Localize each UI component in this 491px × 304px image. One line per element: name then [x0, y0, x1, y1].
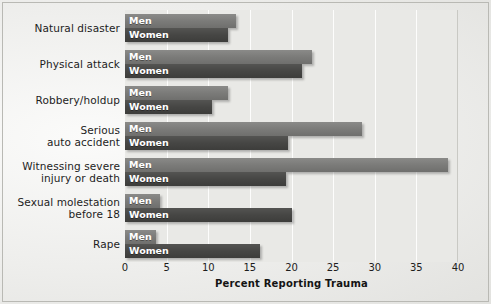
bar-men-0: Men [125, 14, 236, 28]
bar-series-label: Men [129, 14, 152, 28]
bar-women-2: Women [125, 100, 212, 114]
bar-series-label: Men [129, 50, 152, 64]
bar-women-1: Women [125, 64, 302, 78]
chart-figure: Natural disasterPhysical attackRobbery/h… [0, 0, 491, 304]
bar-women-5: Women [125, 208, 292, 222]
category-label-0: Natural disaster [4, 22, 120, 34]
bar-series-label: Men [129, 86, 152, 100]
x-tick-0: 0 [122, 262, 128, 273]
bar-series-label: Women [129, 244, 169, 258]
bar-group-0: MenWomen [125, 10, 457, 46]
bar-men-1: Men [125, 50, 312, 64]
bar-group-3: MenWomen [125, 118, 457, 154]
bar-group-6: MenWomen [125, 226, 457, 262]
x-axis-title: Percent Reporting Trauma [125, 278, 458, 289]
bar-women-3: Women [125, 136, 288, 150]
bar-series-label: Women [129, 208, 169, 222]
x-tick-30: 30 [368, 262, 381, 273]
bar-group-1: MenWomen [125, 46, 457, 82]
category-label-1: Physical attack [4, 58, 120, 70]
bar-series-label: Men [129, 230, 152, 244]
bar-men-2: Men [125, 86, 228, 100]
plot-area: MenWomenMenWomenMenWomenMenWomenMenWomen… [125, 10, 458, 262]
x-tick-10: 10 [202, 262, 215, 273]
category-label-5: Sexual molestationbefore 18 [4, 196, 120, 220]
category-label-2: Robbery/holdup [4, 94, 120, 106]
x-tick-35: 35 [410, 262, 423, 273]
bar-group-5: MenWomen [125, 190, 457, 226]
bar-series-label: Men [129, 122, 152, 136]
bar-series-label: Men [129, 194, 152, 208]
x-tick-5: 5 [163, 262, 169, 273]
bar-series-label: Women [129, 100, 169, 114]
bar-women-6: Women [125, 244, 260, 258]
x-tick-40: 40 [452, 262, 465, 273]
x-tick-15: 15 [244, 262, 257, 273]
category-axis-labels: Natural disasterPhysical attackRobbery/h… [4, 10, 120, 262]
bar-series-label: Women [129, 172, 169, 186]
category-label-4: Witnessing severeinjury or death [4, 160, 120, 184]
bar-group-2: MenWomen [125, 82, 457, 118]
bar-men-4: Men [125, 158, 448, 172]
bar-series-label: Women [129, 28, 169, 42]
bar-men-6: Men [125, 230, 156, 244]
bar-women-4: Women [125, 172, 286, 186]
bar-group-4: MenWomen [125, 154, 457, 190]
bar-series-label: Women [129, 64, 169, 78]
bar-series-label: Men [129, 158, 152, 172]
x-axis-ticks: 0510152025303540 [125, 262, 458, 278]
bar-men-5: Men [125, 194, 160, 208]
bar-women-0: Women [125, 28, 228, 42]
bar-series-label: Women [129, 136, 169, 150]
x-tick-20: 20 [285, 262, 298, 273]
x-tick-25: 25 [327, 262, 340, 273]
category-label-3: Seriousauto accident [4, 124, 120, 148]
bar-men-3: Men [125, 122, 362, 136]
category-label-6: Rape [4, 238, 120, 250]
